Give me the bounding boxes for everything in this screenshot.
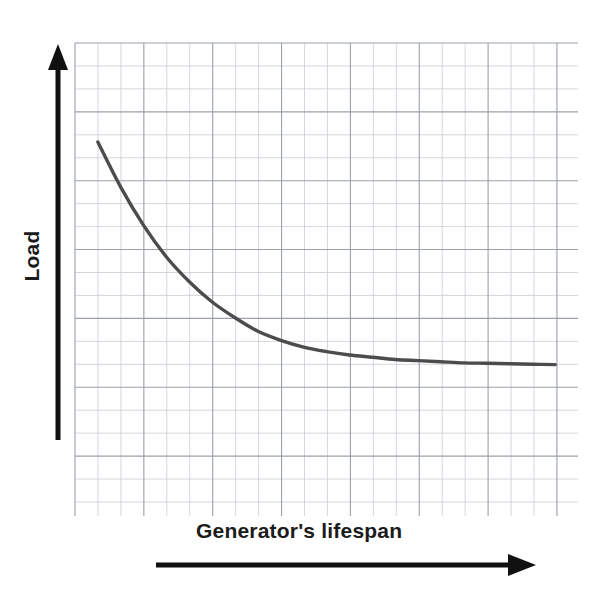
chart-figure: Load Generator's lifespan	[0, 0, 608, 605]
grid-minor-lines	[75, 43, 578, 516]
x-axis-label: Generator's lifespan	[196, 519, 402, 543]
y-axis-label: Load	[2, 228, 62, 284]
chart-canvas	[0, 0, 608, 605]
x-axis-arrow	[156, 554, 536, 576]
grid-major-lines	[75, 43, 578, 516]
